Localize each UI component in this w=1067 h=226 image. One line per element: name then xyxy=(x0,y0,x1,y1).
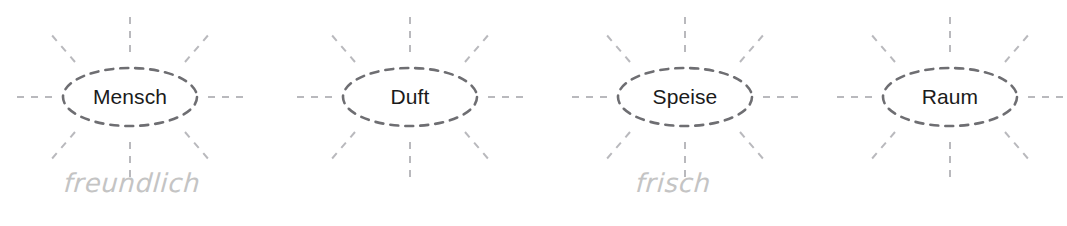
ray-ne xyxy=(740,33,765,62)
ray-ne xyxy=(1005,33,1030,62)
cluster-duft[interactable]: Duft xyxy=(280,0,540,226)
cluster-raum[interactable]: Raum xyxy=(820,0,1067,226)
ray-ne xyxy=(465,33,490,62)
hand-label-freundlich: freundlich xyxy=(63,168,202,198)
hand-label-frisch: frisch xyxy=(635,168,712,198)
ray-nw xyxy=(50,33,75,62)
ray-nw xyxy=(330,33,355,62)
cluster-speise[interactable]: Speise frisch xyxy=(555,0,815,226)
ray-sw xyxy=(50,132,75,161)
node-label-speise: Speise xyxy=(615,66,755,128)
node-mensch[interactable]: Mensch xyxy=(60,66,200,128)
ray-ne xyxy=(185,33,210,62)
node-label-raum: Raum xyxy=(880,66,1020,128)
node-duft[interactable]: Duft xyxy=(340,66,480,128)
ray-se xyxy=(1005,132,1030,161)
diagram-canvas: Mensch freundlich Duft xyxy=(0,0,1067,226)
ray-nw xyxy=(870,33,895,62)
ray-sw xyxy=(330,132,355,161)
ray-nw xyxy=(605,33,630,62)
cluster-mensch[interactable]: Mensch freundlich xyxy=(0,0,260,226)
ray-sw xyxy=(870,132,895,161)
node-speise[interactable]: Speise xyxy=(615,66,755,128)
node-raum[interactable]: Raum xyxy=(880,66,1020,128)
ray-se xyxy=(465,132,490,161)
ray-se xyxy=(740,132,765,161)
ray-se xyxy=(185,132,210,161)
node-label-duft: Duft xyxy=(340,66,480,128)
node-label-mensch: Mensch xyxy=(60,66,200,128)
ray-sw xyxy=(605,132,630,161)
